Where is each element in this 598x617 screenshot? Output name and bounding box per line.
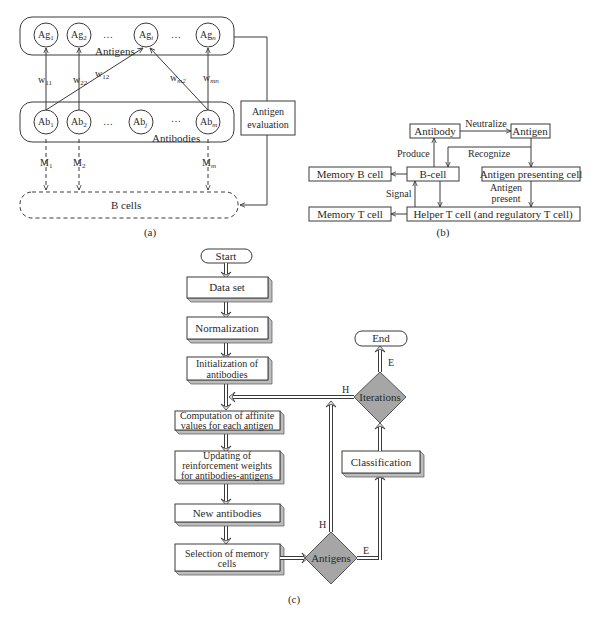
weight-wmn: wmn [203, 72, 219, 85]
antigen-evaluation-label-1: Antigen [252, 106, 284, 117]
produce-label: Produce [397, 148, 430, 159]
weight-wm2: wm2 [170, 72, 186, 85]
antibody-node-j: Abj [129, 110, 153, 134]
antigens-label: Antigens [95, 45, 135, 57]
step-updating: Updating of reinforcement weights for an… [175, 450, 284, 484]
eval-link-top [234, 37, 267, 101]
memory-mm: Mm [202, 157, 216, 170]
svg-text:cells: cells [218, 558, 236, 569]
antibodies-ellipsis-1: … [103, 116, 113, 127]
svg-text:for antibodies-antigens: for antibodies-antigens [181, 470, 273, 481]
signal-label: Signal [386, 188, 412, 199]
antigens-h-label: H [319, 519, 326, 530]
svg-text:Start: Start [216, 250, 237, 262]
svg-text:New antibodies: New antibodies [193, 507, 262, 519]
svg-text:B-cell: B-cell [420, 168, 447, 180]
antigens-ellipsis-2: … [171, 29, 181, 40]
svg-text:Classification: Classification [351, 456, 412, 468]
b-cells-label: B cells [111, 199, 141, 211]
svg-text:Normalization: Normalization [195, 322, 259, 334]
antigens-e-label: E [363, 545, 369, 556]
antigen-present-label-2: present [492, 193, 521, 204]
panel-b-caption: (b) [437, 226, 450, 239]
svg-text:antibodies: antibodies [206, 369, 247, 380]
panel-a-caption: (a) [144, 226, 157, 239]
step-normalization: Normalization [187, 317, 272, 343]
step-data-set: Data set [187, 277, 272, 302]
antibody-node-1: Ab1 [34, 110, 58, 134]
antibody-node-m: Abm [196, 110, 220, 134]
svg-text:End: End [372, 332, 390, 344]
antigen-node-1: Ag1 [34, 23, 58, 47]
panel-b: Antibody Antigen Neutralize Memory B cel… [309, 118, 582, 239]
svg-text:Antigen presenting cell: Antigen presenting cell [480, 168, 583, 180]
step-computation: Computation of affinite values for each … [175, 410, 284, 434]
iterations-h-label: H [342, 384, 349, 395]
svg-text:values for each antigen: values for each antigen [181, 420, 273, 431]
antigens-ellipsis-1: … [103, 29, 113, 40]
figure-canvas: Ag1 Ag2 … Agi … Agn Antigens Ab1 Ab2 … [0, 0, 598, 617]
svg-text:Helper T cell (and regulatory: Helper T cell (and regulatory T cell) [413, 208, 573, 221]
memory-arrows [46, 139, 208, 190]
decision-antigens: Antigens [305, 532, 357, 584]
antigen-node-2: Ag2 [67, 23, 91, 47]
antigen-evaluation-label-2: evaluation [247, 119, 289, 130]
panel-c: Start Data set [175, 249, 424, 606]
svg-text:Initialization of: Initialization of [196, 358, 259, 369]
panel-c-caption: (c) [288, 593, 301, 606]
weight-w12: w12 [95, 68, 110, 81]
weight-w11: w11 [38, 74, 52, 87]
svg-text:Iterations: Iterations [359, 391, 401, 403]
recognize-label: Recognize [468, 148, 511, 159]
antigen-present-label-1: Antigen [490, 182, 522, 193]
step-initialization: Initialization of antibodies [187, 357, 272, 384]
antibodies-label: Antibodies [152, 132, 200, 144]
step-selection-memory-cells: Selection of memory cells [175, 544, 284, 575]
svg-text:Antigen: Antigen [512, 125, 548, 137]
neutralize-label: Neutralize [465, 118, 507, 129]
iterations-e-label: E [388, 357, 394, 368]
svg-text:Antigens: Antigens [311, 552, 351, 564]
eval-link-bottom [240, 135, 267, 205]
step-new-antibodies: New antibodies [175, 504, 284, 526]
svg-text:Memory T cell: Memory T cell [317, 208, 383, 220]
svg-text:Memory B cell: Memory B cell [317, 168, 384, 180]
antibody-node-2: Ab2 [67, 110, 91, 134]
panel-a: Ag1 Ag2 … Agi … Agn Antigens Ab1 Ab2 … [20, 17, 295, 239]
step-classification: Classification [342, 451, 424, 477]
antigen-node-n: Agn [196, 23, 220, 47]
weight-w22: w22 [73, 74, 88, 87]
decision-iterations: Iterations [354, 372, 406, 423]
antibodies-ellipsis-2: … [171, 113, 181, 124]
antigen-node-i: Agi [134, 23, 158, 47]
svg-text:Data set: Data set [209, 281, 245, 293]
svg-text:Antibody: Antibody [414, 125, 456, 137]
